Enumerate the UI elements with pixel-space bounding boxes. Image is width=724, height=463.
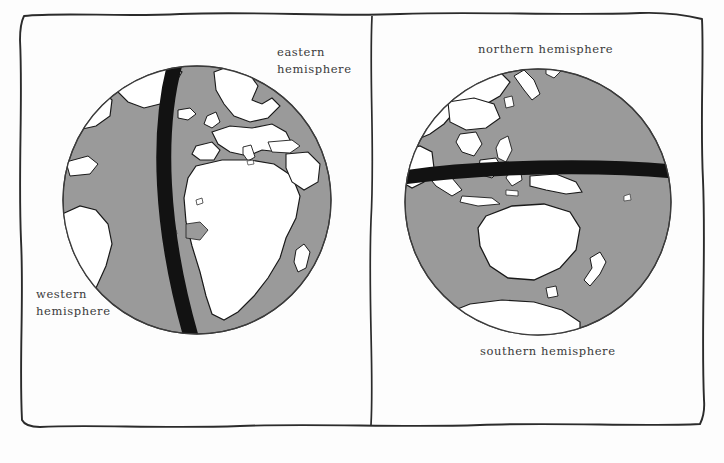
frame-border: [20, 13, 704, 427]
frame-layer: [0, 0, 724, 463]
eastern-hemisphere-label: eastern hemisphere: [277, 44, 352, 78]
frame-divider: [370, 16, 372, 425]
hemispheres-figure: eastern hemisphere western hemisphere no…: [0, 0, 724, 463]
southern-hemisphere-label: southern hemisphere: [480, 343, 616, 360]
western-hemisphere-label: western hemisphere: [36, 286, 111, 320]
northern-hemisphere-label: northern hemisphere: [478, 41, 613, 58]
